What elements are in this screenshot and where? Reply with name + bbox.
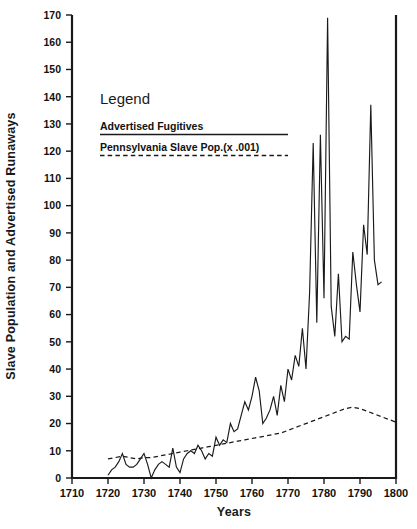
y-tick-label: 80: [49, 254, 61, 266]
y-tick-label: 160: [43, 36, 61, 48]
x-tick-label: 1770: [276, 487, 300, 499]
y-tick-label: 140: [43, 91, 61, 103]
y-tick-label: 0: [55, 472, 61, 484]
y-axis-title: Slave Population and Advertised Runaways: [4, 112, 18, 379]
y-tick-label: 90: [49, 227, 61, 239]
y-tick-label: 60: [49, 308, 61, 320]
x-axis-title: Years: [217, 505, 251, 519]
y-tick-label: 10: [49, 445, 61, 457]
legend-title: Legend: [100, 90, 150, 107]
legend-item-label-0: Advertised Fugitives: [100, 120, 203, 132]
y-tick-label: 110: [44, 172, 61, 184]
runaways-chart: 0102030405060708090100110120130140150160…: [0, 0, 417, 529]
x-tick-label: 1730: [132, 487, 156, 499]
y-tick-label: 30: [49, 390, 61, 402]
x-tick-label: 1760: [240, 487, 264, 499]
x-tick-label: 1790: [348, 487, 372, 499]
x-tick-label: 1710: [60, 487, 84, 499]
y-tick-label: 120: [43, 145, 61, 157]
y-tick-label: 100: [43, 199, 61, 211]
x-tick-label: 1740: [168, 487, 192, 499]
y-tick-label: 170: [43, 9, 61, 21]
y-tick-label: 150: [43, 63, 61, 75]
y-tick-label: 20: [49, 417, 61, 429]
x-tick-label: 1800: [384, 487, 408, 499]
x-tick-label: 1720: [96, 487, 120, 499]
y-tick-label: 70: [49, 281, 61, 293]
y-tick-label: 130: [43, 118, 61, 130]
legend-item-label-1: Pennsylvania Slave Pop.(x .001): [100, 141, 259, 153]
x-tick-label: 1780: [312, 487, 336, 499]
x-tick-label: 1750: [204, 487, 228, 499]
y-tick-label: 40: [49, 363, 61, 375]
y-tick-label: 50: [49, 336, 61, 348]
